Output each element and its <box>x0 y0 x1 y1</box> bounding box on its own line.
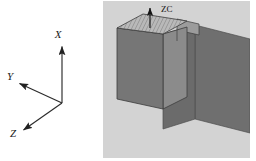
x-axis-label: X <box>54 28 63 40</box>
isometric-model-viewport: ZC <box>103 1 250 158</box>
block-side-face <box>163 27 187 109</box>
model-svg: ZC <box>103 1 250 158</box>
y-axis-label: Y <box>7 70 15 82</box>
zc-label: ZC <box>161 4 173 14</box>
coordinate-axis-triad: X Y Z <box>0 0 103 161</box>
flat-plane-quadrilateral <box>195 25 250 133</box>
z-axis-line <box>24 103 63 130</box>
z-axis-label: Z <box>10 127 17 139</box>
axes-svg: X Y Z <box>0 0 103 161</box>
figure-root: X Y Z <box>0 0 256 161</box>
block-front-face <box>117 28 163 109</box>
y-axis-line <box>20 84 63 104</box>
